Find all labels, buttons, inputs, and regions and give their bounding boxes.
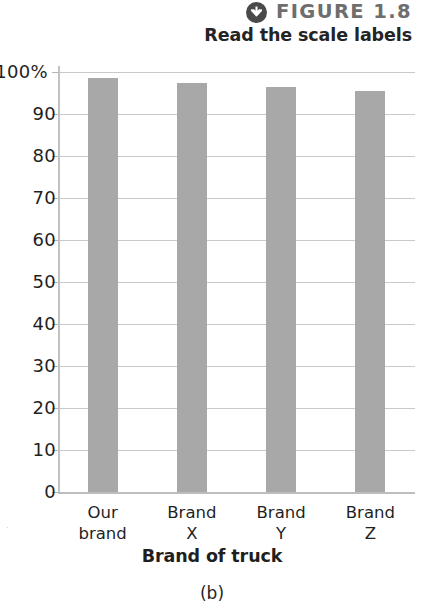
x-axis-tick-label: Brand Y	[235, 502, 327, 544]
y-axis-tick-label: 30	[0, 357, 56, 375]
y-axis-tick-label: 50	[0, 273, 56, 291]
bar	[177, 83, 207, 493]
down-arrow-circle-icon	[246, 2, 267, 23]
bar-chart: 0102030405060708090100% Our brandBrand X…	[0, 56, 424, 500]
y-axis-tick-label: 70	[0, 189, 56, 207]
figure-number-label: FIGURE 1.8	[276, 1, 412, 23]
figure-caption: (b)	[0, 583, 424, 603]
y-axis-tick-label: 20	[0, 399, 56, 417]
y-axis-line	[58, 66, 60, 493]
figure-header: FIGURE 1.8 Read the scale labels	[0, 0, 424, 52]
bar	[266, 87, 296, 492]
y-axis-tick-label: 80	[0, 147, 56, 165]
figure-title-row: FIGURE 1.8	[246, 1, 412, 23]
x-axis-tick-label: Our brand	[57, 502, 149, 544]
y-axis-tick-label: 0	[0, 483, 56, 501]
x-axis-tick-label: Brand Z	[324, 502, 416, 544]
y-axis-tick-label: 10	[0, 441, 56, 459]
y-axis-tick-label: 40	[0, 315, 56, 333]
y-axis-tick-label: 90	[0, 105, 56, 123]
bar	[355, 91, 385, 492]
gridline	[58, 72, 415, 73]
y-axis-tick-label: 100%	[0, 63, 48, 81]
y-axis-tick-label: 60	[0, 231, 56, 249]
bar	[88, 78, 118, 492]
figure-subtitle: Read the scale labels	[204, 24, 412, 46]
x-axis-tick-label: Brand X	[146, 502, 238, 544]
x-axis-title: Brand of truck	[0, 546, 424, 566]
x-axis-line	[58, 492, 415, 494]
corner-mark: .	[6, 520, 9, 530]
